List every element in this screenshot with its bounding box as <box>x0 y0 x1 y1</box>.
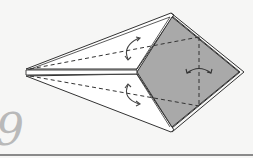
center-strip <box>26 70 137 75</box>
divider-rule <box>0 154 253 156</box>
origami-diagram <box>0 0 253 158</box>
step-number: 9 <box>0 108 24 152</box>
